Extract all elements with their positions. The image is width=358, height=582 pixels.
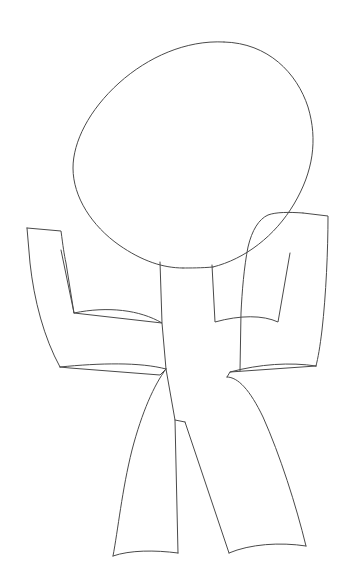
line-drawing-figure: HeadLeft shoulderRight shoulderLeft armR… (0, 0, 358, 582)
drawing-canvas: HeadLeft shoulderRight shoulderLeft armR… (0, 0, 358, 582)
canvas-background (0, 0, 358, 582)
